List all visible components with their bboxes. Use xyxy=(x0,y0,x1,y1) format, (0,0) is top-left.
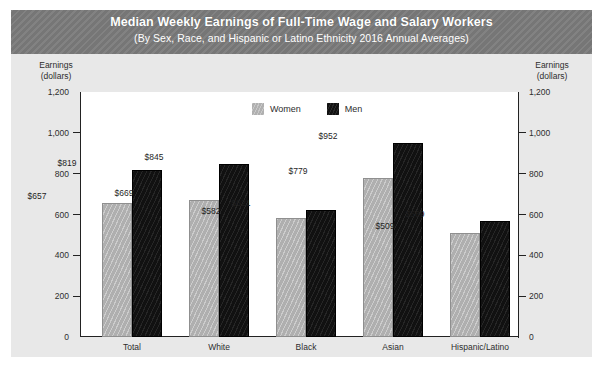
chart-title: Median Weekly Earnings of Full-Time Wage… xyxy=(11,15,592,29)
bar-value-label-women-total: $657 xyxy=(20,191,54,201)
y-tick-right-600 xyxy=(519,214,526,215)
y-tick-right-1000 xyxy=(519,132,526,133)
bar-women-asian[interactable] xyxy=(363,178,393,337)
y-tick-label-left-200: 200 xyxy=(55,291,69,301)
left-axis-caption-line1: Earnings xyxy=(26,60,86,71)
right-axis-caption-line2: (dollars) xyxy=(522,71,582,82)
y-tick-left-1000 xyxy=(73,132,80,133)
y-tick-right-200 xyxy=(519,296,526,297)
y-tick-label-left-400: 400 xyxy=(55,250,69,260)
y-tick-label-right-400: 400 xyxy=(529,250,543,260)
bar-men-hispanic-latino[interactable] xyxy=(480,221,510,337)
bar-women-white[interactable] xyxy=(189,200,219,337)
category-label-asian: Asian xyxy=(382,342,403,352)
y-tick-label-right-1000: 1,000 xyxy=(529,128,550,138)
bar-group-total xyxy=(102,92,162,337)
bar-value-label-men-hispanic-latino: $569 xyxy=(398,209,432,219)
chart-figure: Median Weekly Earnings of Full-Time Wage… xyxy=(0,0,603,368)
y-tick-label-left-800: 800 xyxy=(55,169,69,179)
bar-value-label-women-asian: $779 xyxy=(281,166,315,176)
y-tick-left-600 xyxy=(73,214,80,215)
chart-header-band: Median Weekly Earnings of Full-Time Wage… xyxy=(11,10,592,54)
y-tick-left-800 xyxy=(73,173,80,174)
y-tick-left-400 xyxy=(73,255,80,256)
y-tick-label-left-0: 0 xyxy=(64,332,69,342)
bar-value-label-women-black: $582 xyxy=(194,206,228,216)
left-axis-caption: Earnings (dollars) xyxy=(26,60,86,81)
bar-women-total[interactable] xyxy=(102,203,132,337)
right-axis-line xyxy=(518,92,519,338)
bar-men-white[interactable] xyxy=(219,164,249,337)
y-tick-right-800 xyxy=(519,173,526,174)
bar-value-label-women-hispanic-latino: $509 xyxy=(368,221,402,231)
y-tick-label-right-0: 0 xyxy=(529,332,534,342)
bar-value-label-men-asian: $952 xyxy=(311,131,345,141)
bar-value-label-men-black: $621 xyxy=(224,198,258,208)
y-tick-label-right-800: 800 xyxy=(529,169,543,179)
y-tick-label-left-1000: 1,000 xyxy=(48,128,69,138)
chart-subtitle: (By Sex, Race, and Hispanic or Latino Et… xyxy=(11,32,592,44)
category-label-white: White xyxy=(208,342,230,352)
category-label-black: Black xyxy=(296,342,317,352)
bar-value-label-men-white: $845 xyxy=(137,152,171,162)
y-tick-label-right-600: 600 xyxy=(529,210,543,220)
bar-group-hispanic-latino xyxy=(450,92,510,337)
y-tick-label-right-200: 200 xyxy=(529,291,543,301)
left-axis-caption-line2: (dollars) xyxy=(26,71,86,82)
bar-women-black[interactable] xyxy=(276,218,306,337)
right-axis-caption: Earnings (dollars) xyxy=(522,60,582,81)
bars-layer xyxy=(80,92,518,337)
category-label-hispanic-latino: Hispanic/Latino xyxy=(451,342,509,352)
category-label-total: Total xyxy=(123,342,141,352)
y-tick-label-right-1200: 1,200 xyxy=(529,87,550,97)
y-tick-left-200 xyxy=(73,296,80,297)
y-tick-label-left-600: 600 xyxy=(55,210,69,220)
y-tick-right-400 xyxy=(519,255,526,256)
bar-value-label-women-white: $669 xyxy=(107,188,141,198)
bar-men-black[interactable] xyxy=(306,210,336,337)
y-tick-label-left-1200: 1,200 xyxy=(48,87,69,97)
right-axis-caption-line1: Earnings xyxy=(522,60,582,71)
bar-group-black xyxy=(276,92,336,337)
bar-value-label-men-total: $819 xyxy=(50,158,84,168)
bar-men-asian[interactable] xyxy=(393,143,423,337)
bar-women-hispanic-latino[interactable] xyxy=(450,233,480,337)
